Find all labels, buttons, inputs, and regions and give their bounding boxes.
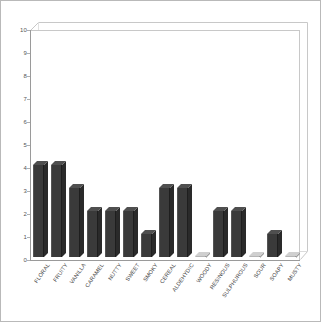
bar-side-face	[188, 184, 192, 257]
x-axis-labels: FLORALFRUITYVANILLACARAMELNUTTYSWEETSMOK…	[30, 262, 315, 320]
bar-chart-figure: 012345678910 FLORALFRUITYVANILLACARAMELN…	[0, 0, 321, 322]
bar-slot	[195, 30, 211, 261]
x-tick-label: SWEET	[124, 262, 141, 282]
bar-side-face	[224, 207, 228, 257]
bar-slot	[141, 30, 157, 261]
x-tick-label: VANILLA	[68, 262, 86, 285]
y-tick-label: 6	[3, 119, 27, 125]
bar-slot	[123, 30, 139, 261]
bars-layer	[30, 30, 300, 261]
bar-side-face	[62, 161, 66, 257]
bar-side-face	[80, 184, 84, 257]
x-tick-label: MUSTY	[286, 262, 303, 282]
bar-slot	[87, 30, 103, 261]
bar-slot	[177, 30, 193, 261]
x-tick-label: SOAPY	[269, 262, 285, 282]
bar-side-face	[134, 207, 138, 257]
bar-slot	[213, 30, 229, 261]
bar-slot	[249, 30, 265, 261]
bar-slot	[267, 30, 283, 261]
y-tick-label: 8	[3, 73, 27, 79]
bar-slot	[51, 30, 67, 261]
bar-caramel[interactable]	[87, 211, 98, 257]
y-tick-label: 7	[3, 96, 27, 102]
x-tick-label: FLORAL	[33, 262, 51, 284]
bar-slot	[231, 30, 247, 261]
bar-vanilla[interactable]	[69, 188, 80, 257]
bar-side-face	[278, 230, 282, 257]
bar-cereal[interactable]	[159, 188, 170, 257]
y-tick-label: 3	[3, 188, 27, 194]
bar-slot	[105, 30, 121, 261]
bar-side-face	[116, 207, 120, 257]
x-tick-label: SOUR	[252, 262, 267, 279]
y-tick-label: 0	[3, 257, 27, 263]
plot-area	[30, 22, 308, 260]
bar-sulphurous[interactable]	[231, 211, 242, 257]
bar-floral[interactable]	[33, 165, 44, 257]
bar-side-face	[242, 207, 246, 257]
y-tick-label: 1	[3, 234, 27, 240]
x-tick-label: SMOKY	[142, 262, 159, 283]
bar-sweet[interactable]	[123, 211, 134, 257]
y-tick-label: 10	[3, 27, 27, 33]
x-tick-label: FRUITY	[52, 262, 69, 283]
y-axis-ticks: 012345678910	[0, 22, 27, 260]
bar-side-face	[44, 161, 48, 257]
x-tick-label: NUTTY	[107, 262, 123, 281]
bar-slot	[33, 30, 49, 261]
y-tick-label: 9	[3, 50, 27, 56]
bar-slot	[285, 30, 301, 261]
y-tick-label: 5	[3, 142, 27, 148]
x-tick-label: CEREAL	[159, 262, 177, 285]
bar-side-face	[170, 184, 174, 257]
x-tick-label: WOODY	[195, 262, 213, 284]
bar-aldehydic[interactable]	[177, 188, 188, 257]
y-tick-label: 4	[3, 165, 27, 171]
bar-fruity[interactable]	[51, 165, 62, 257]
bar-slot	[159, 30, 175, 261]
x-tick-label: CARAMEL	[84, 262, 105, 288]
bar-slot	[69, 30, 85, 261]
y-tick-label: 2	[3, 211, 27, 217]
bar-side-face	[152, 230, 156, 257]
bar-resinous[interactable]	[213, 211, 224, 257]
bar-nutty[interactable]	[105, 211, 116, 257]
bar-side-face	[98, 207, 102, 257]
bar-smoky[interactable]	[141, 234, 152, 257]
bar-soapy[interactable]	[267, 234, 278, 257]
